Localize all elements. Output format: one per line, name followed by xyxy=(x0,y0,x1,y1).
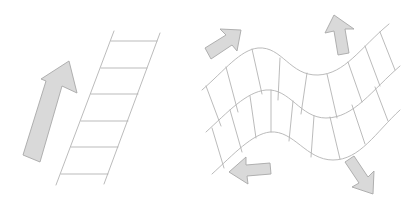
arrow-up-right-icon xyxy=(23,61,77,162)
grid-divider xyxy=(348,62,362,102)
diagram-canvas xyxy=(0,0,420,214)
arrow-left-icon xyxy=(229,157,271,184)
arrow-up-icon xyxy=(325,15,354,55)
grid-divider xyxy=(289,101,293,141)
left-panel xyxy=(23,31,160,185)
right-panel xyxy=(202,15,400,194)
grid-divider xyxy=(230,110,242,152)
grid-divider xyxy=(301,73,307,114)
grid-divider xyxy=(352,105,365,144)
grid-divider xyxy=(330,117,340,159)
wave-grid xyxy=(202,24,400,174)
grid-divider xyxy=(212,128,224,168)
arrow-down-right-icon xyxy=(345,156,374,194)
ladder xyxy=(56,31,160,185)
grid-divider xyxy=(206,86,221,126)
grid-divider xyxy=(250,96,256,138)
grid-divider xyxy=(375,87,388,121)
grid-divider xyxy=(278,58,280,100)
grid-divider xyxy=(327,74,337,118)
grid-divider xyxy=(380,32,395,70)
ladder-right-rail xyxy=(104,33,160,184)
grid-divider xyxy=(252,49,262,94)
arrow-up-right-icon xyxy=(205,29,241,59)
ladder-left-rail xyxy=(56,31,114,185)
grid-divider xyxy=(311,116,314,157)
grid-divider xyxy=(226,67,238,112)
grid-divider xyxy=(365,46,380,86)
